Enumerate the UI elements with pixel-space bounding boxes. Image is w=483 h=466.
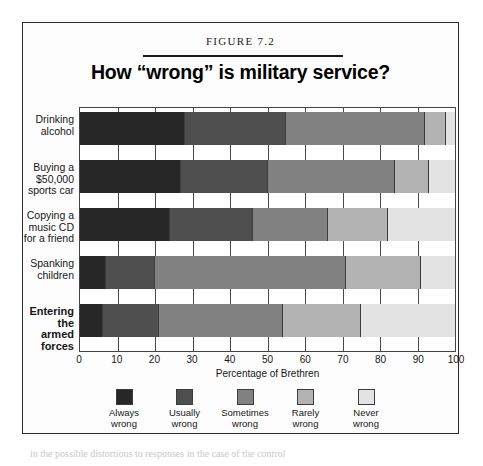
bar-row: Copying amusic CDfor a friend <box>80 208 455 241</box>
bar-rows: DrinkingalcoholBuying a$50,000sports car… <box>80 108 455 351</box>
legend-item[interactable]: Neverwrong <box>337 389 395 429</box>
page-body-text: in the possible distortions to responses… <box>30 448 460 459</box>
category-label: Copying amusic CDfor a friend <box>4 210 80 245</box>
x-tick-label: 80 <box>375 354 386 365</box>
category-label: Spankingchildren <box>4 258 80 281</box>
bar-segment <box>80 304 103 337</box>
category-label: Drinkingalcohol <box>4 114 80 137</box>
legend-item[interactable]: Alwayswrong <box>95 389 153 429</box>
bar-segment <box>429 160 455 193</box>
bar-segment <box>170 208 253 241</box>
x-tick-label: 70 <box>337 354 348 365</box>
legend-swatch <box>176 389 193 405</box>
x-tick-label: 10 <box>111 354 122 365</box>
bar-segment <box>268 160 396 193</box>
bar-row: Enteringthearmedforces <box>80 304 455 337</box>
legend-item[interactable]: Sometimeswrong <box>216 389 274 429</box>
x-axis-label: Percentage of Brethren <box>79 368 456 379</box>
bar-segment <box>395 160 429 193</box>
category-label: Enteringthearmedforces <box>4 306 80 352</box>
figure-number-label: FIGURE 7.2 <box>23 35 458 47</box>
bar-segment <box>181 160 267 193</box>
bar-segment <box>283 304 362 337</box>
legend-item[interactable]: Usuallywrong <box>156 389 214 429</box>
x-tick-label: 40 <box>224 354 235 365</box>
x-tick-label: 60 <box>300 354 311 365</box>
x-tick-label: 100 <box>448 354 465 365</box>
bar-segment <box>253 208 328 241</box>
legend-swatch <box>116 389 133 405</box>
figure-frame: FIGURE 7.2 How “wrong” is military servi… <box>22 22 459 434</box>
bar-segment <box>425 112 446 145</box>
legend-item[interactable]: Rarelywrong <box>277 389 335 429</box>
bar-segment <box>80 256 106 289</box>
bar-segment <box>159 304 283 337</box>
bar-segment <box>421 256 455 289</box>
plot-area: DrinkingalcoholBuying a$50,000sports car… <box>79 107 456 352</box>
bar-segment <box>286 112 425 145</box>
bar-segment <box>80 160 181 193</box>
bar-segment <box>103 304 159 337</box>
bar-segment <box>346 256 421 289</box>
x-tick-label: 30 <box>187 354 198 365</box>
bar-row: Buying a$50,000sports car <box>80 160 455 193</box>
bar-segment <box>80 112 185 145</box>
x-tick-label: 0 <box>76 354 82 365</box>
bar-segment <box>155 256 346 289</box>
legend-label: Usuallywrong <box>156 408 214 429</box>
chart-title: How “wrong” is military service? <box>23 61 458 84</box>
legend-swatch <box>237 389 254 405</box>
legend-label: Rarelywrong <box>277 408 335 429</box>
bar-segment <box>80 208 170 241</box>
legend-label: Sometimeswrong <box>216 408 274 429</box>
chart-legend: AlwayswrongUsuallywrongSometimeswrongRar… <box>95 389 395 429</box>
bar-segment <box>446 112 455 145</box>
x-tick-label: 50 <box>262 354 273 365</box>
bar-segment <box>185 112 286 145</box>
bar-segment <box>361 304 455 337</box>
bar-segment <box>106 256 155 289</box>
legend-swatch <box>358 389 375 405</box>
legend-swatch <box>297 389 314 405</box>
category-label: Buying a$50,000sports car <box>4 162 80 197</box>
legend-label: Alwayswrong <box>95 408 153 429</box>
bar-segment <box>328 208 388 241</box>
bar-row: Drinkingalcohol <box>80 112 455 145</box>
x-tick-label: 90 <box>413 354 424 365</box>
bar-segment <box>388 208 456 241</box>
x-tick-label: 20 <box>149 354 160 365</box>
title-divider-rule <box>143 55 343 57</box>
bar-row: Spankingchildren <box>80 256 455 289</box>
legend-label: Neverwrong <box>337 408 395 429</box>
